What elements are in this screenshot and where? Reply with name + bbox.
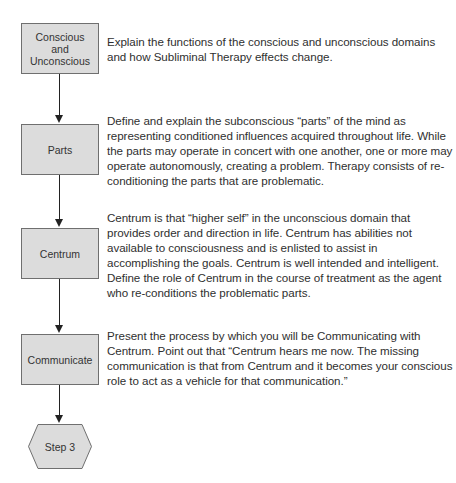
terminal-hexagon-step-3: Step 3 (28, 424, 92, 469)
terminal-label: Step 3 (45, 441, 75, 453)
step-description-communicate: Present the process by which you will be… (107, 328, 453, 388)
connector-line (59, 175, 60, 220)
step-box-parts: Parts (21, 124, 99, 175)
arrow-down-icon (55, 325, 63, 333)
step-label: Communicate (28, 354, 93, 366)
step-label-line: Unconscious (30, 55, 90, 67)
connector-line (59, 385, 60, 416)
step-label-line: Conscious (30, 31, 90, 43)
step-label: Parts (48, 144, 73, 156)
step-box-communicate: Communicate (21, 334, 99, 385)
step-label: Centrum (40, 248, 80, 260)
step-description-centrum: Centrum is that “higher self” in the unc… (107, 210, 453, 300)
step-label-line: and (30, 43, 90, 55)
step-box-conscious-unconscious: Conscious and Unconscious (21, 23, 99, 74)
step-description-conscious-unconscious: Explain the functions of the conscious a… (107, 34, 453, 64)
step-description-parts: Define and explain the subconscious “par… (107, 113, 453, 188)
arrow-down-icon (55, 115, 63, 123)
arrow-down-icon (55, 219, 63, 227)
step-box-centrum: Centrum (21, 228, 99, 279)
connector-line (59, 279, 60, 326)
connector-line (59, 74, 60, 116)
arrow-down-icon (55, 415, 63, 423)
